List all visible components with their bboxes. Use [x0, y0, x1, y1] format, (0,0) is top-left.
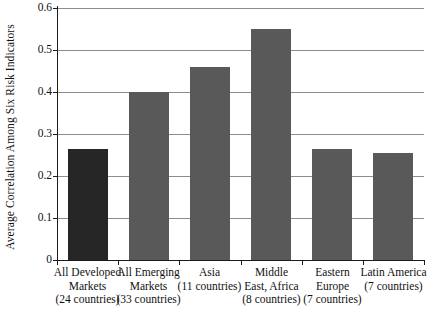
x-axis-label-line: Latin America [356, 266, 431, 280]
bar [373, 153, 413, 260]
x-tick-mark [363, 260, 364, 265]
y-tick-label: 0.2 [8, 170, 52, 181]
x-tick-mark [302, 260, 303, 265]
bar [129, 92, 169, 260]
y-tick-label: 0.4 [8, 86, 52, 97]
x-axis-label-line: (7 countries) [295, 293, 370, 307]
bar [251, 29, 291, 260]
y-tick-label: 0.1 [8, 212, 52, 223]
x-tick-mark [118, 260, 119, 265]
x-axis-label-line: (7 countries) [356, 280, 431, 294]
x-tick-mark [57, 260, 58, 265]
y-tick-label: 0.5 [8, 44, 52, 55]
x-tick-mark [241, 260, 242, 265]
x-tick-mark [179, 260, 180, 265]
y-tick-label: 0 [8, 254, 52, 265]
bar-chart: Average Correlation Among Six Risk Indic… [0, 0, 442, 309]
bar [312, 149, 352, 260]
x-axis-category-label: Latin America(7 countries) [356, 266, 431, 293]
x-tick-mark [424, 260, 425, 265]
y-tick-label: 0.6 [8, 2, 52, 13]
plot-area [57, 8, 424, 260]
x-axis-label-line: (33 countries) [111, 293, 186, 307]
y-tick-label: 0.3 [8, 128, 52, 139]
bar [190, 67, 230, 260]
bar [68, 149, 108, 260]
